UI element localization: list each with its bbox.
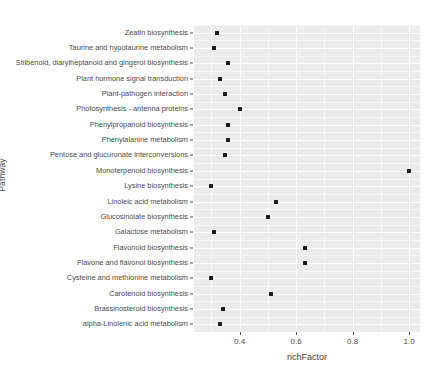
y-axis-tick-label: Flavonoid biosynthesis [113,244,188,251]
gridline-horizontal-minor [194,209,420,210]
y-axis-tick-label: Plant hormone signal transduction [76,75,188,82]
gridline-horizontal-minor [194,148,420,149]
data-point [226,61,230,65]
data-point [238,107,242,111]
y-axis-tick-label: Galactose metabolism [115,229,188,236]
gridline-horizontal [194,155,420,156]
y-axis-tick-mark [190,186,193,187]
gridline-horizontal-minor [194,255,420,256]
data-point [407,169,411,173]
gridline-vertical [353,25,354,332]
y-axis-tick-label: Cysteine and methionine metabolism [67,275,188,282]
y-axis-tick-label: Photosynthesis - antenna proteins [76,106,188,113]
gridline-horizontal-minor [194,286,420,287]
data-point [212,230,216,234]
y-axis-tick-label: Taurine and hypotaurine metabolism [69,44,188,51]
gridline-vertical [296,25,297,332]
gridline-horizontal [194,324,420,325]
gridline-vertical-minor [324,25,325,332]
scatter-plot: Pathway Zeatin biosynthesisTaurine and h… [0,0,440,375]
y-axis-tick-label: Plant-pathogen interaction [102,90,188,97]
y-axis-tick-mark [190,94,193,95]
gridline-horizontal [194,248,420,249]
gridline-vertical-minor [381,25,382,332]
gridline-horizontal [194,109,420,110]
x-axis-tick-mark [240,332,241,335]
data-point [269,292,273,296]
gridline-horizontal [194,309,420,310]
data-point [221,307,225,311]
gridline-horizontal [194,94,420,95]
y-axis-tick-label: Flavone and flavonol biosynthesis [77,259,188,266]
y-axis-tick-mark [190,232,193,233]
y-axis-tick-mark [190,63,193,64]
data-point [274,200,278,204]
y-axis-tick-mark [190,140,193,141]
y-axis-tick-label: Lysine biosynthesis [124,182,188,189]
gridline-vertical-minor [211,25,212,332]
y-axis-tick-label: Brassinosteroid biosynthesis [94,305,188,312]
gridline-horizontal [194,217,420,218]
y-axis-tick-label: alpha-Linolenic acid metabolism [83,321,188,328]
data-point [303,261,307,265]
gridline-horizontal-minor [194,163,420,164]
y-axis-tick-mark [190,124,193,125]
x-axis-tick-label: 0.6 [291,337,302,346]
gridline-horizontal-minor [194,301,420,302]
y-axis-tick-label: Phenylalanine metabolism [102,136,188,143]
gridline-horizontal [194,232,420,233]
gridline-horizontal-minor [194,86,420,87]
gridline-horizontal-minor [194,25,420,26]
y-axis-tick-label: Zeatin biosynthesis [125,29,188,36]
y-axis-tick-mark [190,278,193,279]
y-axis-tick-label: Pentose and glucuronate interconversions [50,152,188,159]
gridline-horizontal [194,48,420,49]
gridline-horizontal-minor [194,132,420,133]
y-axis-tick-label: Phenylpropanoid biosynthesis [90,121,188,128]
gridline-horizontal-minor [194,179,420,180]
gridline-horizontal-minor [194,194,420,195]
gridline-horizontal-minor [194,240,420,241]
y-axis-tick-labels: Zeatin biosynthesisTaurine and hypotauri… [0,0,188,375]
data-point [303,246,307,250]
gridline-vertical [240,25,241,332]
gridline-horizontal [194,171,420,172]
gridline-horizontal [194,79,420,80]
y-axis-tick-label: Monoterpenoid biosynthesis [96,167,188,174]
data-point [266,215,270,219]
x-axis-tick-label: 0.4 [234,337,245,346]
y-axis-tick-label: Glucosinolate biosynthesis [100,213,188,220]
data-point [215,31,219,35]
gridline-horizontal-minor [194,271,420,272]
y-axis-tick-mark [190,247,193,248]
y-axis-tick-mark [190,293,193,294]
y-axis-tick-label: Linoleic acid metabolism [107,198,188,205]
x-axis-title: richFactor [194,352,420,362]
gridline-horizontal [194,278,420,279]
gridline-horizontal [194,263,420,264]
data-point [223,92,227,96]
gridline-horizontal-minor [194,40,420,41]
y-axis-tick-mark [190,155,193,156]
gridline-horizontal [194,33,420,34]
y-axis-tick-mark [190,32,193,33]
y-axis-tick-label: Stilbenoid, diarylheptanoid and gingerol… [16,60,188,67]
gridline-horizontal-minor [194,117,420,118]
gridline-horizontal-minor [194,56,420,57]
data-point [218,322,222,326]
y-axis-tick-mark [190,201,193,202]
data-point [212,46,216,50]
y-axis-tick-mark [190,109,193,110]
x-axis-tick-mark [409,332,410,335]
data-point [226,138,230,142]
gridline-vertical-minor [268,25,269,332]
gridline-horizontal [194,186,420,187]
gridline-vertical [409,25,410,332]
data-point [226,123,230,127]
gridline-horizontal-minor [194,71,420,72]
y-axis-tick-mark [190,262,193,263]
data-point [218,77,222,81]
gridline-horizontal [194,202,420,203]
plot-panel [194,25,420,332]
data-point [223,153,227,157]
